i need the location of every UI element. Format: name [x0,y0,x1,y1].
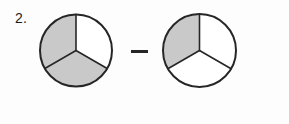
fraction-subtraction-figure [0,0,289,124]
subtrahend-circle [163,14,236,87]
worksheet-problem: 2. [0,0,289,124]
figures-group [40,14,236,87]
minuend-circle [40,14,112,86]
